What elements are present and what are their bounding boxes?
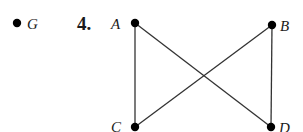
- vertex-label-c: C: [111, 119, 122, 132]
- vertex-label-a: A: [110, 16, 121, 32]
- vertex-dot-a: [131, 19, 139, 27]
- vertex-label-b: B: [280, 18, 289, 34]
- vertex-dot-c: [131, 123, 139, 131]
- graph-diagram: G 4. A B C D: [0, 0, 303, 132]
- vertex-dot-d: [267, 123, 275, 131]
- edges: [135, 23, 272, 127]
- problem-number: 4.: [77, 13, 91, 34]
- vertex-dot-g: [13, 19, 21, 27]
- vertex-d: D: [267, 120, 290, 132]
- vertex-dot-b: [268, 21, 276, 29]
- isolated-vertex-g: G: [13, 16, 38, 32]
- vertex-b: B: [268, 18, 289, 34]
- vertex-label-g: G: [27, 16, 38, 32]
- edge-b-d: [271, 25, 272, 127]
- vertex-label-d: D: [278, 120, 290, 132]
